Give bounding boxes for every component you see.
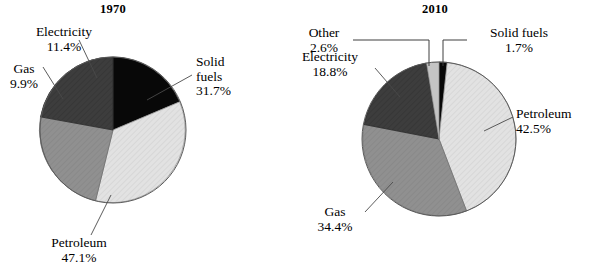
callout-petroleum-1970-name: Petroleum [27,236,131,251]
callout-petroleum-2010-name: Petroleum [516,107,591,122]
callout-petroleum-1970-value: 47.1% [27,251,131,266]
callout-solid-fuels-2010-value: 1.7% [471,41,567,56]
callout-solid-fuels-1970-name-line2: fuels [196,70,282,85]
callout-solid-fuels-2010: Solid fuels 1.7% [471,26,567,55]
callout-electricity-2010-value: 18.8% [287,65,373,80]
pie-slice-electricity-1970 [41,57,113,130]
callout-electricity-2010: Electricity 18.8% [287,50,373,79]
callout-other-2010-name: Other [293,26,355,41]
callout-petroleum-2010: Petroleum 42.5% [516,107,591,136]
callout-electricity-1970-name: Electricity [12,25,116,40]
chart-panel-1970: 1970 [0,0,296,275]
callout-electricity-2010-name: Electricity [287,50,373,65]
callout-electricity-1970: Electricity 11.4% [12,25,116,54]
callout-gas-2010-value: 34.4% [307,220,363,235]
callout-solid-fuels-1970: Solid fuels 31.7% [196,55,282,99]
callout-petroleum-1970: Petroleum 47.1% [27,236,131,265]
callout-solid-fuels-1970-value: 31.7% [196,84,282,99]
callout-petroleum-2010-value: 42.5% [516,122,591,137]
pie-chart-figure: 1970 [0,0,591,275]
chart-panel-2010: 2010 [295,0,591,275]
callout-gas-2010: Gas 34.4% [307,205,363,234]
callout-gas-1970: Gas 9.9% [0,62,50,91]
callout-gas-2010-name: Gas [307,205,363,220]
callout-gas-1970-name: Gas [0,62,50,77]
callout-gas-1970-value: 9.9% [0,77,50,92]
callout-electricity-1970-value: 11.4% [12,40,116,55]
callout-solid-fuels-2010-name: Solid fuels [471,26,567,41]
callout-solid-fuels-1970-name-line1: Solid [196,55,282,70]
